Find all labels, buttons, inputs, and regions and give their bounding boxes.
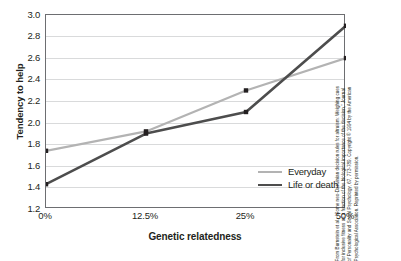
legend-swatch-life-or-death xyxy=(258,184,282,186)
series-everyday-points xyxy=(46,56,346,153)
legend-label-life-or-death: Life or death xyxy=(288,179,338,190)
y-tick-label-2.8: 2.8 xyxy=(14,30,40,41)
y-tick-label-2.0: 2.0 xyxy=(14,117,40,128)
y-tick-label-1.8: 1.8 xyxy=(14,138,40,149)
series-everyday-line xyxy=(46,58,346,151)
x-axis-title: Genetic relatedness xyxy=(45,231,345,242)
y-tick-label-2.2: 2.2 xyxy=(14,95,40,106)
y-tick-label-3.0: 3.0 xyxy=(14,9,40,20)
source-line-4: Psychological Association. Reprinted by … xyxy=(353,13,359,261)
source-credit: From Burnstein et al., “Some neo-Darwini… xyxy=(335,13,360,261)
data-point xyxy=(244,110,248,114)
x-tick-label-0: 0% xyxy=(19,210,71,221)
x-tick-label-25: 25% xyxy=(219,210,271,221)
legend-swatch-everyday xyxy=(258,171,282,173)
data-point xyxy=(46,149,48,153)
legend-label-everyday: Everyday xyxy=(288,166,326,177)
x-tick-label-12.5: 12.5% xyxy=(119,210,171,221)
data-point xyxy=(144,131,148,135)
series-life-or-death-line xyxy=(46,26,346,184)
y-tick-label-2.4: 2.4 xyxy=(14,73,40,84)
data-point xyxy=(46,182,48,186)
legend-item-everyday: Everyday xyxy=(258,165,338,178)
y-tick-label-2.6: 2.6 xyxy=(14,52,40,63)
y-tick-label-1.6: 1.6 xyxy=(14,160,40,171)
data-point xyxy=(244,88,248,92)
y-tick-label-1.4: 1.4 xyxy=(14,181,40,192)
legend-item-life-or-death: Life or death xyxy=(258,178,338,191)
chart-legend: Everyday Life or death xyxy=(258,165,338,191)
